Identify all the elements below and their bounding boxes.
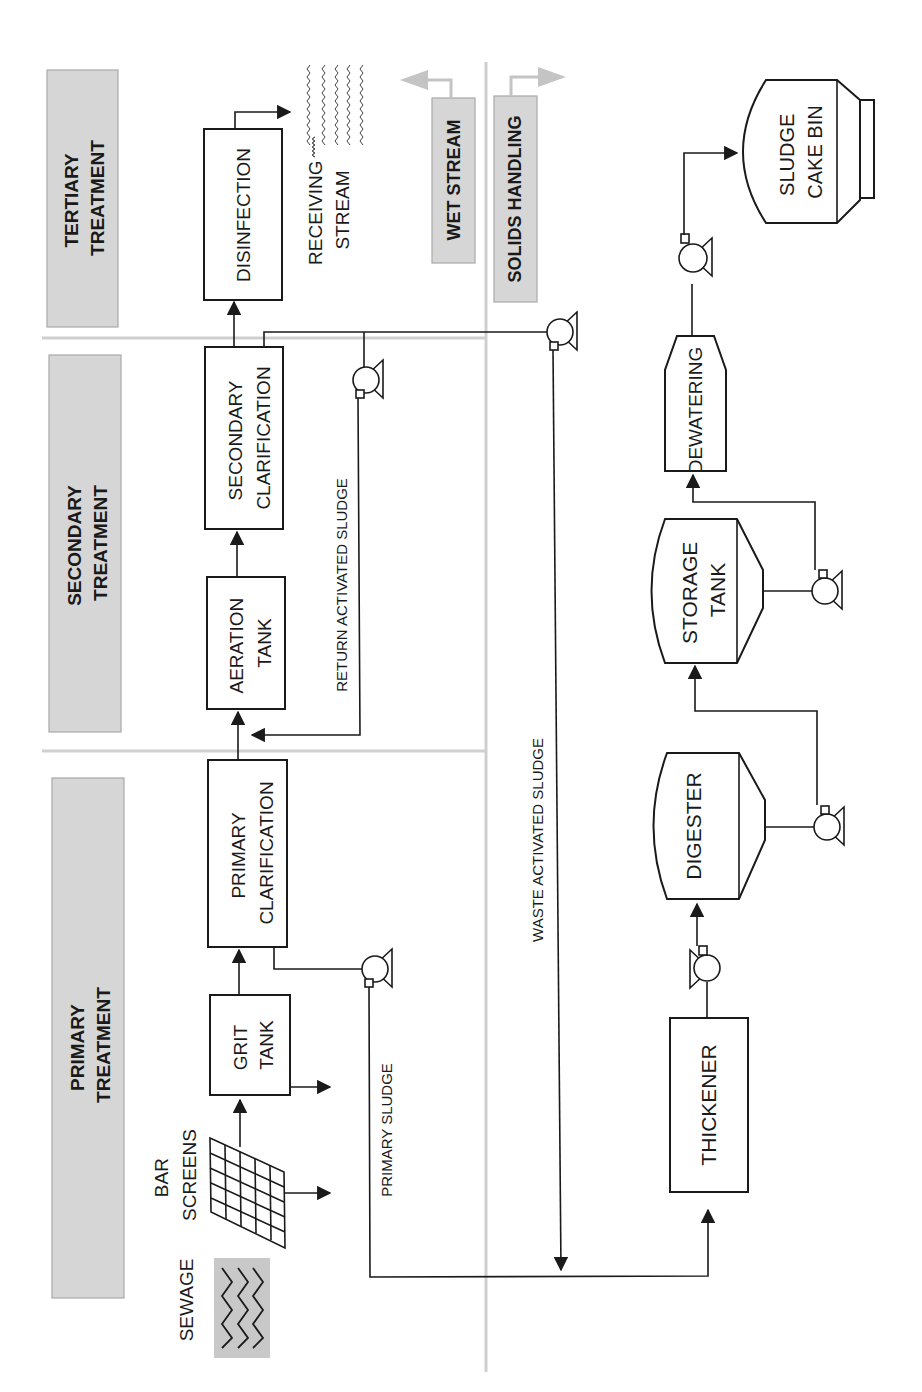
- storage-tank: STORAGE TANK: [652, 519, 816, 663]
- grit-tank: GRIT TANK: [210, 950, 330, 1095]
- svg-text:RECEIVING STREAM: RECEIVING STREAM: [305, 155, 353, 265]
- secondary-clarification: SECONDARY CLARIFICATION: [205, 302, 555, 529]
- svg-text:BAR SCREENS: BAR SCREENS: [151, 1129, 200, 1221]
- primary-sludge-draw-line: [274, 947, 370, 969]
- dewatering: DEWATERING: [665, 284, 726, 473]
- sewage-input: SEWAGE: [176, 1258, 270, 1358]
- process-flow-diagram: TERTIARY TREATMENT SECONDARY TREATMENT P…: [0, 0, 922, 1392]
- dewatering-label: DEWATERING: [685, 347, 706, 474]
- waste-activated-sludge-line: [553, 350, 561, 1270]
- thickener: THICKENER: [670, 982, 748, 1192]
- grit-tank-line2: TANK: [256, 1020, 277, 1070]
- water-waves-icon: [313, 137, 316, 157]
- solids-arrow-icon: [538, 67, 566, 87]
- disinfection: DISINFECTION: [204, 112, 290, 300]
- header-tertiary-line1: TERTIARY: [61, 153, 82, 248]
- thickener-pump-icon: [690, 946, 720, 988]
- sludge-cake-bin: SLUDGE CAKE BIN: [743, 80, 874, 223]
- sludge-cake-bin-line1: SLUDGE: [776, 114, 798, 196]
- header-primary-line1: PRIMARY: [67, 1004, 88, 1091]
- bar-screen-grid-icon: [210, 1138, 285, 1248]
- waste-activated-sludge-label: WASTE ACTIVATED SLUDGE: [529, 738, 546, 942]
- storage-tank-line2: TANK: [706, 563, 729, 617]
- solids-handling-label: SOLIDS HANDLING: [494, 67, 566, 302]
- primary-sludge-label: PRIMARY SLUDGE: [378, 1063, 395, 1197]
- header-primary-line2: TREATMENT: [93, 987, 114, 1103]
- disinfection-label: DISINFECTION: [233, 148, 254, 282]
- digester-pump-icon: [814, 806, 844, 845]
- aeration-tank-line1: AERATION: [226, 598, 247, 694]
- thickener-label: THICKENER: [697, 1044, 720, 1165]
- bar-screens-line2: SCREENS: [179, 1129, 200, 1221]
- digester-label: DIGESTER: [682, 772, 705, 879]
- receiving-stream-line2: STREAM: [332, 170, 353, 249]
- header-tertiary-line2: TREATMENT: [87, 140, 108, 256]
- ras-pump-icon: [353, 360, 383, 398]
- header-secondary-line1: SECONDARY: [64, 485, 85, 606]
- grit-tank-line1: GRIT: [230, 1024, 251, 1070]
- return-activated-sludge-label: RETURN ACTIVATED SLUDGE: [333, 478, 350, 692]
- primary-sludge-line: [369, 987, 708, 1277]
- header-secondary: SECONDARY TREATMENT: [49, 355, 121, 732]
- primary-clarification-line1: PRIMARY: [228, 812, 249, 899]
- header-secondary-line2: TREATMENT: [90, 485, 111, 601]
- flow-disinfection-to-stream-arrow: [235, 112, 290, 129]
- wet-stream-text: WET STREAM: [444, 120, 464, 241]
- wet-stream-label: WET STREAM: [400, 70, 475, 263]
- dewatering-pump-icon: [679, 234, 712, 276]
- bar-screens: BAR SCREENS: [151, 1100, 330, 1248]
- wet-stream-arrow-icon: [400, 70, 428, 90]
- receiving-stream-waves: [307, 65, 363, 145]
- solids-handling-text: SOLIDS HANDLING: [505, 115, 525, 282]
- digester: DIGESTER: [654, 753, 821, 899]
- receiving-stream: RECEIVING STREAM: [305, 65, 363, 265]
- storage-tank-line1: STORAGE: [678, 542, 701, 644]
- sludge-cake-bin-line2: CAKE BIN: [804, 105, 826, 198]
- header-tertiary: TERTIARY TREATMENT: [47, 70, 118, 327]
- storage-pump-icon: [812, 570, 842, 609]
- primary-sludge-pump-icon: [362, 949, 392, 987]
- aeration-tank-line2: TANK: [254, 618, 275, 668]
- secondary-clarification-line2: CLARIFICATION: [253, 366, 274, 509]
- primary-clarification-line2: CLARIFICATION: [256, 781, 277, 924]
- secondary-clarification-line1: SECONDARY: [225, 380, 246, 500]
- wet-stream-arrow-line: [428, 80, 451, 98]
- header-primary: PRIMARY TREATMENT: [52, 778, 124, 1298]
- was-pump-icon: [547, 312, 577, 350]
- flow-dewatering-to-bin-arrow: [684, 153, 737, 235]
- solids-arrow-line: [511, 77, 538, 96]
- aeration-tank: AERATION TANK: [207, 532, 285, 709]
- bar-screens-line1: BAR: [151, 1158, 172, 1197]
- receiving-stream-line1: RECEIVING: [305, 160, 326, 265]
- sewage-label: SEWAGE: [176, 1259, 197, 1342]
